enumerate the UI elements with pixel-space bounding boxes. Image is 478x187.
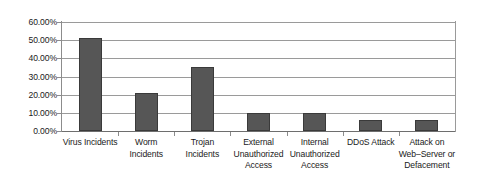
bar-chart-figure: 60.00%50.00%40.00%30.00%20.00%10.00%0.00… <box>0 0 478 187</box>
plot-area <box>62 22 455 131</box>
category-label-line: Unauthorized <box>281 149 349 161</box>
category-label-line: Attack on <box>393 137 461 149</box>
x-axis-tick-mark <box>287 132 288 136</box>
gridline-6000 <box>62 22 455 23</box>
x-axis-tick-mark <box>230 132 231 136</box>
bar <box>79 38 102 131</box>
x-axis-tick-mark <box>343 132 344 136</box>
y-axis-tick-label: 0.00% <box>2 126 57 136</box>
y-axis-tick-mark <box>57 113 62 114</box>
category-label-line: Access <box>281 160 349 172</box>
bar <box>191 67 214 131</box>
x-axis-category-label: Attack onWeb–Server orDefacement <box>393 137 461 172</box>
plot-right-border <box>455 21 456 132</box>
category-label-line: Web–Server or <box>393 149 461 161</box>
gridline-3000 <box>62 77 455 78</box>
bar <box>303 113 326 131</box>
y-axis-tick-mark <box>57 77 62 78</box>
y-axis-tick-label: 30.00% <box>2 72 57 82</box>
bar <box>135 93 158 131</box>
y-axis-tick-label: 60.00% <box>2 17 57 27</box>
gridline-4000 <box>62 58 455 59</box>
x-axis-tick-mark <box>118 132 119 136</box>
category-label-line: Defacement <box>393 160 461 172</box>
y-axis-tick-label: 10.00% <box>2 108 57 118</box>
y-axis-tick-mark <box>57 95 62 96</box>
bar <box>415 120 438 131</box>
y-axis-tick-mark <box>57 40 62 41</box>
gridline-000 <box>62 131 455 132</box>
bar <box>359 120 382 131</box>
y-axis-tick-mark <box>57 58 62 59</box>
y-axis-tick-mark <box>57 22 62 23</box>
bar <box>247 113 270 131</box>
gridline-2000 <box>62 95 455 96</box>
gridline-5000 <box>62 40 455 41</box>
y-axis-tick-labels: 60.00%50.00%40.00%30.00%20.00%10.00%0.00… <box>0 0 57 187</box>
x-axis-tick-mark <box>399 132 400 136</box>
y-axis-tick-label: 20.00% <box>2 90 57 100</box>
y-axis-tick-label: 50.00% <box>2 35 57 45</box>
y-axis-tick-mark <box>57 131 62 132</box>
y-axis-tick-label: 40.00% <box>2 53 57 63</box>
x-axis-tick-mark <box>174 132 175 136</box>
